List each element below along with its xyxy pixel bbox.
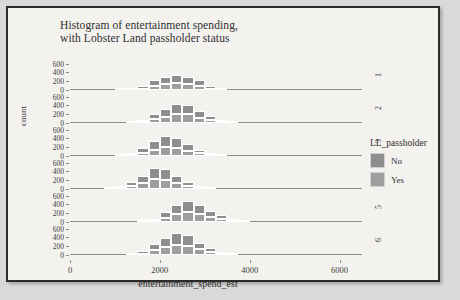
bar-segment-yes [126, 186, 137, 189]
histogram-bar [149, 244, 160, 255]
bar-segment-yes [160, 218, 171, 222]
histogram-bar [182, 182, 193, 189]
bar-segment-yes [160, 84, 171, 90]
bar-segment-no [216, 252, 227, 254]
bar-segment-no [115, 186, 126, 188]
bar-segment-no [171, 205, 182, 214]
bar-segment-no [194, 205, 205, 214]
x-tick [160, 260, 161, 263]
legend-swatch-icon [370, 172, 385, 187]
histogram-bar [115, 156, 126, 157]
bar-segment-no [137, 86, 148, 89]
y-tick-label: 400 [53, 135, 64, 142]
histogram-bar [126, 89, 137, 90]
legend-item-no[interactable]: No [370, 153, 440, 168]
bar-segment-no [194, 111, 205, 117]
bar-segment-yes [182, 151, 193, 156]
histogram-bar [216, 252, 227, 255]
y-tick-label: 400 [53, 201, 64, 208]
histogram-bar [194, 150, 205, 156]
histogram-bar [160, 109, 171, 123]
bar-segment-no [216, 120, 227, 122]
y-tick-label: 600 [53, 61, 64, 68]
y-tick-label: 600 [53, 160, 64, 167]
legend-item-yes[interactable]: Yes [370, 172, 440, 187]
bar-segment-yes [194, 214, 205, 222]
panel-bars [70, 159, 362, 189]
x-axis-label: entertainment_spend_est [8, 278, 368, 289]
legend-item-label: Yes [391, 175, 404, 185]
bar-segment-no [126, 153, 137, 155]
bar-segment-no [160, 109, 171, 117]
bar-segment-no [194, 243, 205, 250]
bar-segment-no [149, 141, 160, 149]
bar-segment-yes [171, 245, 182, 256]
histogram-bar [115, 187, 126, 189]
y-tick-label: 600 [53, 94, 64, 101]
bar-segment-no [182, 144, 193, 150]
legend-swatch-icon [370, 153, 385, 168]
panel-bars [70, 126, 362, 156]
bar-segment-yes [160, 147, 171, 156]
bar-segment-yes [182, 114, 193, 123]
bar-segment-no [227, 121, 238, 123]
bar-segment-no [194, 150, 205, 154]
y-axis-ticks: 0200400600 [30, 192, 70, 222]
histogram-bar [205, 248, 216, 255]
bar-segment-yes [149, 86, 160, 90]
x-axis: 0200040006000 [70, 260, 362, 261]
bar-segment-no [182, 105, 193, 115]
bar-segment-yes [216, 219, 227, 222]
histogram-bar [171, 75, 182, 90]
x-tick-label: 4000 [241, 265, 258, 275]
bar-segment-no [137, 220, 148, 222]
bar-segment-no [160, 77, 171, 85]
bar-segment-no [194, 80, 205, 86]
x-tick [340, 260, 341, 263]
histogram-bar [137, 120, 148, 123]
bar-segment-yes [149, 179, 160, 189]
bar-segment-no [205, 187, 216, 189]
histogram-bar [205, 116, 216, 123]
histogram-bar [149, 80, 160, 90]
bar-segment-no [182, 182, 193, 186]
y-tick-label: 200 [53, 144, 64, 151]
facet-strip-text: 2 [374, 106, 383, 110]
histogram-bar [227, 123, 238, 124]
histogram-bar [171, 104, 182, 123]
bar-segment-yes [171, 183, 182, 189]
histogram-bar [205, 86, 216, 90]
histogram-bar [137, 176, 148, 190]
histogram-bar [194, 80, 205, 90]
histogram-bar [160, 77, 171, 91]
panel-bars [70, 60, 362, 90]
histogram-bar [126, 182, 137, 189]
bar-segment-yes [182, 246, 193, 255]
bar-segment-no [115, 88, 126, 90]
bar-segment-yes [205, 252, 216, 255]
facet-strip-label: 1 [370, 60, 386, 90]
y-axis-ticks: 0200400600 [30, 159, 70, 189]
bar-segment-no [205, 248, 216, 252]
bar-segment-no [137, 251, 148, 253]
bar-segment-no [216, 154, 227, 156]
bar-segment-yes [182, 84, 193, 90]
facet-strip-text: 1 [374, 73, 383, 77]
bar-segment-no [137, 148, 148, 152]
histogram-bar [205, 211, 216, 222]
histogram-bar [182, 77, 193, 90]
bar-segment-yes [171, 114, 182, 123]
histogram-bar [160, 212, 171, 222]
facet-strip-text: 5 [374, 205, 383, 209]
bar-segment-yes [182, 212, 193, 222]
facet-strip-text: 6 [374, 238, 383, 242]
bar-segment-no [171, 176, 182, 183]
bar-segment-yes [149, 250, 160, 255]
bar-segment-yes [149, 150, 160, 156]
y-tick-label: 200 [53, 78, 64, 85]
bar-segment-no [160, 238, 171, 247]
bar-segment-no [216, 215, 227, 219]
histogram-bar [182, 201, 193, 222]
y-axis-ticks: 0200400600 [30, 126, 70, 156]
bar-segment-no [149, 114, 160, 119]
